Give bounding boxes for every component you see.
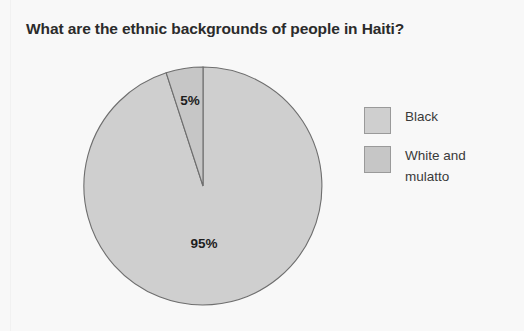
chart-legend: Black White and mulatto bbox=[364, 106, 514, 198]
legend-item-black[interactable]: Black bbox=[364, 106, 514, 134]
pie-chart: 5% 95% bbox=[78, 61, 328, 311]
pie-slice-label-black: 95% bbox=[190, 236, 217, 251]
legend-label-line-2: mulatto bbox=[405, 169, 449, 184]
legend-swatch-black bbox=[364, 107, 391, 134]
legend-swatch-white-and-mulatto bbox=[364, 146, 391, 173]
page-title: What are the ethnic backgrounds of peopl… bbox=[26, 20, 404, 38]
chart-figure: What are the ethnic backgrounds of peopl… bbox=[0, 0, 524, 331]
pie-chart-svg: 5% 95% bbox=[78, 61, 328, 311]
legend-label-line-1: White and bbox=[405, 148, 466, 163]
scan-artifact-line bbox=[10, 0, 11, 331]
pie-slice-label-white-and-mulatto: 5% bbox=[180, 93, 200, 108]
legend-label-black: Black bbox=[405, 106, 438, 127]
legend-label-white-and-mulatto: White and mulatto bbox=[405, 145, 466, 187]
legend-item-white-and-mulatto[interactable]: White and mulatto bbox=[364, 145, 514, 187]
